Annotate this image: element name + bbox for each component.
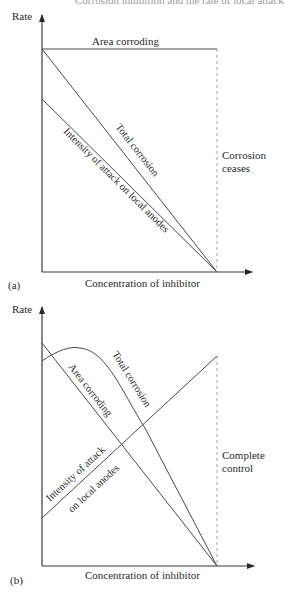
panel-label-a: (a)	[8, 279, 21, 292]
area-corroding-label-b: Area corroding	[66, 361, 115, 419]
y-axis-label-b: Rate	[12, 303, 32, 315]
x-axis-label-a: Concentration of inhibitor	[85, 277, 200, 289]
area-corroding-label-a: Area corroding	[92, 35, 159, 47]
annotation-a-line2: ceases	[222, 162, 250, 174]
intensity-label-a: Intensity of attack on local anodes	[62, 126, 172, 235]
panel-label-b: (b)	[10, 574, 23, 587]
y-axis-label-a: Rate	[12, 10, 32, 22]
figure-a: Rate Concentration of inhibitor (a) Area…	[8, 10, 267, 292]
inhibitor-diagram: Corrosion inhibition and the rate of loc…	[0, 0, 285, 596]
annotation-b-line1: Complete	[222, 449, 265, 461]
x-axis-label-b: Concentration of inhibitor	[85, 569, 200, 581]
annotation-b-line2: control	[222, 462, 253, 474]
intensity-label-b-line1: Intensity of attack	[44, 443, 108, 503]
annotation-a-line1: Corrosion	[222, 149, 267, 161]
figure-b: Rate Concentration of inhibitor (b) Area…	[10, 303, 265, 587]
header-fragment: Corrosion inhibition and the rate of loc…	[75, 0, 284, 6]
total-corrosion-line-a	[42, 49, 217, 272]
